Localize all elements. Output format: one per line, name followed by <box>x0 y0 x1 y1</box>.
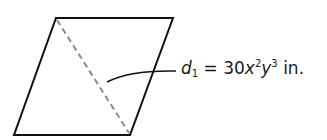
diagonal-label: d1 = 30x2y3 in. <box>181 58 304 79</box>
label-unit: in. <box>278 58 304 78</box>
parallelogram <box>14 18 173 135</box>
label-var: d <box>181 58 192 78</box>
leader-line <box>107 71 176 82</box>
label-x: x <box>245 58 255 78</box>
diagonal-d1 <box>57 20 129 133</box>
label-eq: = 30 <box>198 58 245 78</box>
label-y: y <box>261 58 271 78</box>
